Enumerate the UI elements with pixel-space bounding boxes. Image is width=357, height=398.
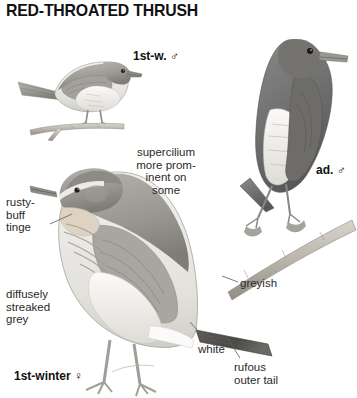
leader-greyish — [222, 276, 238, 282]
caption-adult-male: ad. ♂ — [316, 164, 346, 177]
field-guide-plate: RED-THROATED THRUSH 1st-w. ♂ ad. ♂ 1st-w… — [0, 0, 357, 398]
annotation-supercilium: supercilium more prom- inent on some — [118, 146, 214, 196]
caption-first-winter-female: 1st-winter ♀ — [14, 370, 83, 383]
first-winter-male-bird — [18, 61, 142, 141]
annotation-rusty-buff-tinge: rusty- buff tinge — [6, 196, 35, 234]
annotation-greyish: greyish — [240, 277, 277, 290]
caption-first-winter-male: 1st-w. ♂ — [133, 50, 179, 63]
annotation-rufous-outer-tail: rufous outer tail — [234, 361, 278, 386]
annotation-white: white — [198, 343, 225, 356]
page-title: RED-THROATED THRUSH — [6, 1, 198, 21]
annotation-diffusely-streaked-grey: diffusely streaked grey — [6, 288, 50, 326]
